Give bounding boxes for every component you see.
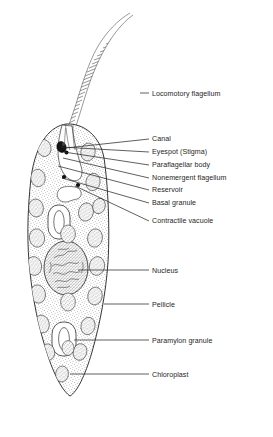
- nucleus: [44, 241, 88, 295]
- label-paraflagellar-body: Paraflagellar body: [152, 161, 210, 169]
- chloroplast: [61, 225, 76, 243]
- label-eyespot-stigma: Eyespot (Stigma): [152, 148, 207, 156]
- label-reservoir: Reservoir: [152, 186, 183, 194]
- eyespot-highlight: [62, 142, 65, 146]
- label-contractile-vacuole: Contractile vacuole: [152, 217, 213, 225]
- label-nonemergent-flagellum: Nonemergent flagellum: [152, 174, 226, 182]
- chloroplast: [61, 293, 76, 311]
- label-locomotory-flagellum: Locomotory flagellum: [152, 90, 220, 98]
- label-chloroplast: Chloroplast: [152, 371, 188, 379]
- label-paramylon-granule: Paramylon granule: [152, 337, 212, 345]
- label-nucleus: Nucleus: [152, 267, 178, 275]
- label-pellicle: Pellicle: [152, 301, 175, 309]
- label-canal: Canal: [152, 135, 171, 143]
- chloroplast: [62, 341, 74, 356]
- label-basal-granule: Basal granule: [152, 199, 196, 207]
- euglena-diagram: Locomotory flagellumCanalEyespot (Stigma…: [0, 0, 273, 437]
